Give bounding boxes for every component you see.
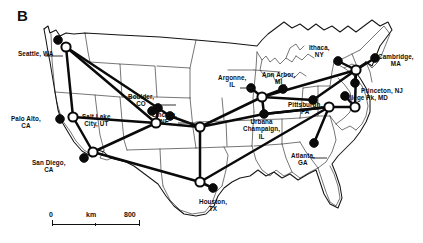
- city-label-ithaca: Ithaca, NY: [309, 44, 330, 59]
- city-label-urbana: Urbana Champaign, IL: [243, 118, 280, 140]
- city-label-lincoln: Lincoln, NE: [152, 111, 177, 126]
- scale-tick-start: [52, 220, 53, 226]
- scale-right-label: 800: [124, 211, 136, 219]
- city-label-college-park: College Pk, MD: [341, 94, 388, 101]
- scale-left-label: 0: [49, 211, 53, 219]
- city-label-pittsburgh: Pittsburgh, PA: [288, 101, 322, 116]
- city-label-san-diego: San Diego, CA: [32, 159, 66, 174]
- city-label-salt-lake: Salt Lake City, UT: [82, 113, 111, 128]
- scale-tick-end: [139, 220, 140, 226]
- scale-bar: 0 km 800: [44, 211, 150, 233]
- city-label-palo-alto: Palo Alto, CA: [11, 115, 41, 130]
- network-map-figure: B: [0, 0, 423, 243]
- scale-tick-mid: [95, 223, 96, 226]
- city-label-houston: Houston, TX: [199, 198, 227, 213]
- city-label-ann-arbor: Ann Arbor, MI: [262, 71, 295, 86]
- city-label-seattle: Seattle, WA: [18, 50, 53, 57]
- city-label-cambridge: Cambridge, MA: [378, 53, 414, 68]
- city-label-atlanta: Atlanta, GA: [291, 152, 315, 167]
- city-label-boulder: Boulder, CO: [128, 93, 154, 108]
- scale-unit-label: km: [86, 211, 96, 219]
- city-label-argonne: Argonne, IL: [218, 74, 246, 89]
